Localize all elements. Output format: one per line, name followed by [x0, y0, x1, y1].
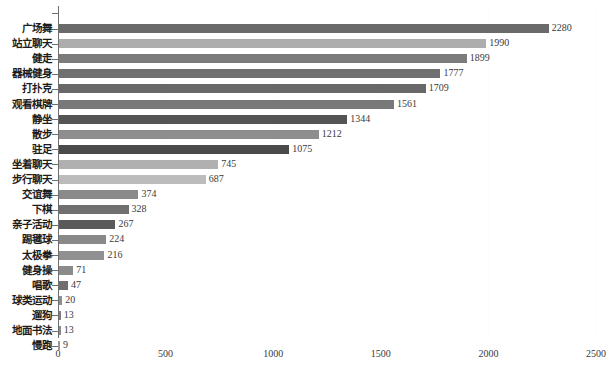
- bar-row: 267: [58, 220, 596, 229]
- bar-value-label: 224: [109, 231, 124, 247]
- x-axis-tick-label: 500: [158, 348, 173, 359]
- bar: [58, 54, 467, 63]
- bar-row: 1212: [58, 130, 596, 139]
- y-axis-tick: [52, 119, 58, 120]
- bar-value-label: 47: [71, 277, 81, 293]
- bar: [58, 130, 319, 139]
- bar-row: 47: [58, 281, 596, 290]
- y-axis-line: [58, 6, 59, 338]
- category-label: 慢跑: [0, 340, 52, 351]
- category-label: 亲子活动: [0, 219, 52, 230]
- bar-value-label: 687: [209, 171, 224, 187]
- category-label: 健走: [0, 53, 52, 64]
- bar: [58, 84, 426, 93]
- bar-row: 13: [58, 326, 596, 335]
- bar-row: 687: [58, 175, 596, 184]
- category-label: 交谊舞: [0, 189, 52, 200]
- y-axis-tick: [52, 300, 58, 301]
- bar-value-label: 13: [64, 307, 74, 323]
- plot-area: 2280199018991777170915611344121210757456…: [58, 8, 596, 338]
- category-label: 遛狗: [0, 310, 52, 321]
- bar: [58, 69, 440, 78]
- y-axis-tick: [52, 285, 58, 286]
- bar: [58, 281, 68, 290]
- bar-value-label: 1075: [292, 141, 312, 157]
- gridline: [596, 8, 597, 338]
- y-axis-tick: [52, 134, 58, 135]
- bar: [58, 266, 73, 275]
- bar: [58, 235, 106, 244]
- bar: [58, 160, 218, 169]
- x-axis-tick-label: 0: [56, 348, 61, 359]
- category-label: 坐着聊天: [0, 159, 52, 170]
- x-axis-tick-label: 2500: [586, 348, 606, 359]
- bar: [58, 145, 289, 154]
- bar-value-label: 1777: [443, 65, 463, 81]
- bar-value-label: 71: [76, 262, 86, 278]
- bar-value-label: 20: [65, 292, 75, 308]
- category-label: 唱歌: [0, 280, 52, 291]
- bar-row: 328: [58, 205, 596, 214]
- category-label: 踢毽球: [0, 234, 52, 245]
- bar-row: 71: [58, 266, 596, 275]
- bar: [58, 190, 138, 199]
- category-label: 步行聊天: [0, 174, 52, 185]
- category-label: 太极拳: [0, 250, 52, 261]
- bar-row: 20: [58, 296, 596, 305]
- bar-row: 9: [58, 341, 596, 350]
- y-axis-tick: [52, 225, 58, 226]
- y-axis-tick: [52, 149, 58, 150]
- y-axis-tick: [52, 59, 58, 60]
- bar: [58, 220, 115, 229]
- bar-row: 224: [58, 235, 596, 244]
- y-axis-tick: [52, 195, 58, 196]
- category-label: 静坐: [0, 114, 52, 125]
- y-axis-tick: [52, 104, 58, 105]
- y-axis-tick: [52, 346, 58, 347]
- bar-row: 1561: [58, 100, 596, 109]
- bar-value-label: 1709: [429, 80, 449, 96]
- y-axis-tick: [52, 164, 58, 165]
- y-axis-tick: [52, 180, 58, 181]
- y-axis-tick: [52, 44, 58, 45]
- bar-row: 216: [58, 251, 596, 260]
- category-label: 驻足: [0, 144, 52, 155]
- bar: [58, 115, 347, 124]
- x-axis-tick-label: 1500: [371, 348, 391, 359]
- category-label: 球类运动: [0, 295, 52, 306]
- bar-row: 374: [58, 190, 596, 199]
- bar-value-label: 1561: [397, 96, 417, 112]
- y-axis-tick: [52, 13, 58, 14]
- bar: [58, 100, 394, 109]
- category-label: 站立聊天: [0, 38, 52, 49]
- bar-row: 1709: [58, 84, 596, 93]
- bar-value-label: 328: [132, 201, 147, 217]
- bar-row: 1075: [58, 145, 596, 154]
- bar-value-label: 267: [118, 216, 133, 232]
- bar-value-label: 374: [141, 186, 156, 202]
- category-label: 广场舞: [0, 23, 52, 34]
- y-axis-tick: [52, 29, 58, 30]
- bar-row: 1344: [58, 115, 596, 124]
- y-axis-tick: [52, 315, 58, 316]
- category-label: 下棋: [0, 204, 52, 215]
- bar-value-label: 13: [64, 322, 74, 338]
- bar-value-label: 1990: [489, 35, 509, 51]
- bar-chart: 2280199018991777170915611344121210757456…: [0, 0, 614, 375]
- bar-value-label: 1899: [470, 50, 490, 66]
- y-axis-tick: [52, 255, 58, 256]
- bar: [58, 39, 486, 48]
- bar-row: 1777: [58, 69, 596, 78]
- bar: [58, 24, 549, 33]
- category-label: 地面书法: [0, 325, 52, 336]
- category-label: 散步: [0, 129, 52, 140]
- bar-row: 1990: [58, 39, 596, 48]
- y-axis-tick: [52, 270, 58, 271]
- bar: [58, 205, 129, 214]
- bar-value-label: 1344: [350, 111, 370, 127]
- y-axis-tick: [52, 331, 58, 332]
- y-axis-tick: [52, 240, 58, 241]
- y-axis-tick: [52, 74, 58, 75]
- bar: [58, 251, 104, 260]
- y-axis-tick: [52, 89, 58, 90]
